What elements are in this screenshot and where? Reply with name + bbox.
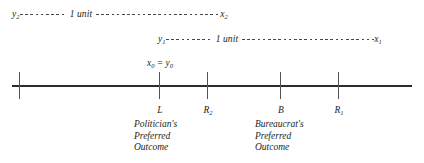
span-2-dash-right bbox=[96, 14, 220, 15]
politician-line-2: Preferred bbox=[134, 131, 177, 143]
axis-tick-B bbox=[280, 72, 281, 99]
span-row-1: y1 1 unit x1 bbox=[158, 35, 382, 45]
span-1-right-endpoint: x1 bbox=[374, 35, 382, 45]
span-2-dash-left bbox=[20, 14, 66, 15]
bureaucrat-preferred-outcome-label: Bureaucrat's Preferred Outcome bbox=[255, 119, 304, 154]
span-1-dash-left bbox=[166, 39, 212, 40]
politician-line-3: Outcome bbox=[134, 142, 177, 154]
axis-tick-L bbox=[159, 72, 160, 99]
bureaucrat-line-3: Outcome bbox=[255, 142, 304, 154]
span-2-left-endpoint: y2 bbox=[12, 10, 20, 20]
span-1-dash-right bbox=[242, 39, 374, 40]
politician-line-1: Politician's bbox=[134, 119, 177, 131]
bureaucrat-line-2: Preferred bbox=[255, 131, 304, 143]
politician-preferred-outcome-label: Politician's Preferred Outcome bbox=[134, 119, 177, 154]
axis-tick-R2 bbox=[207, 72, 208, 99]
axis-tick-R1 bbox=[338, 72, 339, 99]
span-row-2: y2 1 unit x2 bbox=[12, 10, 228, 20]
span-1-unit-label: 1 unit bbox=[212, 35, 243, 45]
origin-equality-label: x0 = y0 bbox=[147, 59, 173, 69]
span-1-left-endpoint: y1 bbox=[158, 35, 166, 45]
axis-label-R2: R2 bbox=[203, 106, 212, 116]
axis-label-R1: R1 bbox=[334, 106, 343, 116]
axis-label-L: L bbox=[157, 106, 162, 116]
bureaucrat-line-1: Bureaucrat's bbox=[255, 119, 304, 131]
span-2-unit-label: 1 unit bbox=[66, 10, 97, 20]
axis-line bbox=[12, 85, 412, 87]
axis-label-B: B bbox=[278, 106, 284, 116]
axis-tick-0 bbox=[19, 72, 20, 99]
number-line-figure: y2 1 unit x2 y1 1 unit x1 x0 = y0 L R2 B… bbox=[0, 0, 424, 163]
span-2-right-endpoint: x2 bbox=[220, 10, 228, 20]
equals-sign: = bbox=[157, 58, 163, 68]
